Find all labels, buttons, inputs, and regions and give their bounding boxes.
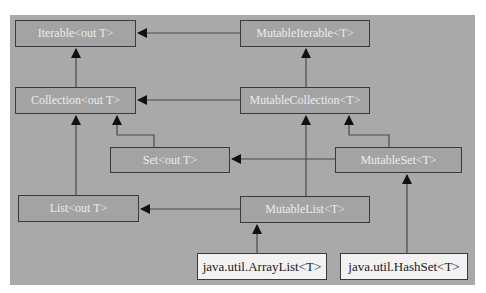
node-label: MutableCollection<T> xyxy=(250,93,361,108)
node-label: MutableList<T> xyxy=(265,202,345,217)
node-set: Set<out T> xyxy=(110,147,230,173)
node-mutable-set: MutableSet<T> xyxy=(335,147,462,173)
node-label: MutableIterable<T> xyxy=(256,26,354,41)
node-collection: Collection<out T> xyxy=(15,87,136,114)
node-hash-set: java.util.HashSet<T> xyxy=(340,253,468,280)
node-label: Collection<out T> xyxy=(31,93,120,108)
node-list: List<out T> xyxy=(18,195,139,222)
node-label: Iterable<out T> xyxy=(38,26,114,41)
node-mutable-collection: MutableCollection<T> xyxy=(240,87,370,114)
node-mutable-list: MutableList<T> xyxy=(240,196,370,223)
node-iterable: Iterable<out T> xyxy=(15,20,136,47)
node-label: MutableSet<T> xyxy=(360,153,436,168)
node-mutable-iterable: MutableIterable<T> xyxy=(240,20,370,47)
node-label: Set<out T> xyxy=(143,153,197,168)
node-label: List<out T> xyxy=(50,201,108,216)
node-label: java.util.ArrayList<T> xyxy=(203,259,322,275)
node-array-list: java.util.ArrayList<T> xyxy=(197,253,327,280)
node-label: java.util.HashSet<T> xyxy=(348,259,459,275)
